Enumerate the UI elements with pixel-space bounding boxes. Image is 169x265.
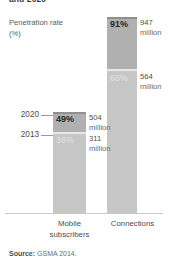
year-leader-2013 xyxy=(41,135,53,136)
value-subscribers-2020-count-number: 504 xyxy=(89,113,111,123)
value-subscribers-2020-count-unit: million xyxy=(89,123,111,132)
value-connections-2013-percent: 65% xyxy=(110,73,128,83)
y-axis-caption-line1: Penetration rate xyxy=(9,18,63,29)
value-connections-2013-count-number: 564 xyxy=(140,72,162,82)
chart-figure: and 2020 Penetration rate (%) 91% 947 mi… xyxy=(0,0,169,265)
category-label-mobile-subscribers-line1: Mobile xyxy=(38,219,101,230)
value-connections-2020-percent: 91% xyxy=(110,19,128,29)
value-connections-2020-count-unit: million xyxy=(140,28,162,37)
value-connections-2013-count: 564 million xyxy=(140,72,162,91)
source-label: Source: xyxy=(9,250,35,257)
source-note: Source: GSMA 2014. xyxy=(9,250,77,257)
bar-connections xyxy=(107,17,137,213)
chart-title: and 2020 xyxy=(9,0,46,4)
value-subscribers-2020-count: 504 million xyxy=(89,113,111,132)
value-subscribers-2013-count-number: 311 xyxy=(89,134,111,144)
year-leader-2020 xyxy=(41,115,53,116)
value-subscribers-2013-count: 311 million xyxy=(89,134,111,153)
category-label-connections-line1: Connections xyxy=(100,219,165,230)
x-axis-baseline xyxy=(5,213,163,214)
value-subscribers-2013-count-unit: million xyxy=(89,144,111,153)
year-label-2013: 2013 xyxy=(8,130,39,139)
category-label-mobile-subscribers: Mobile subscribers xyxy=(38,219,101,240)
y-axis-caption: Penetration rate (%) xyxy=(9,18,63,39)
category-label-connections: Connections xyxy=(100,219,165,230)
category-label-mobile-subscribers-line2: subscribers xyxy=(38,230,101,241)
bar-mobile-subscribers xyxy=(53,112,86,213)
value-subscribers-2013-percent: 36% xyxy=(56,135,74,145)
value-connections-2013-count-unit: million xyxy=(140,82,162,91)
bar-connections-divider xyxy=(107,69,137,71)
source-text: GSMA 2014. xyxy=(37,250,77,257)
year-label-2020: 2020 xyxy=(8,110,39,119)
value-connections-2020-count-number: 947 xyxy=(140,18,162,28)
bar-subscribers-divider xyxy=(53,132,86,134)
y-axis-caption-line2: (%) xyxy=(9,29,63,40)
value-subscribers-2020-percent: 49% xyxy=(56,114,74,124)
value-connections-2020-count: 947 million xyxy=(140,18,162,37)
